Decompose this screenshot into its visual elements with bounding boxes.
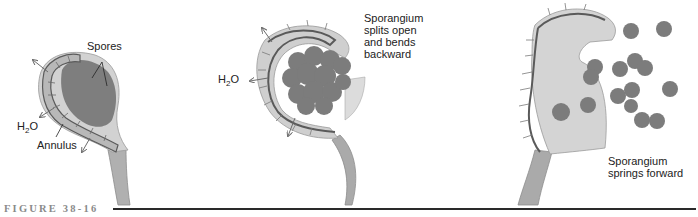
h2o-suffix: O — [230, 73, 239, 85]
h2o-prefix: H — [17, 120, 25, 132]
spores-label: Spores — [87, 40, 122, 52]
caption-rule — [113, 208, 696, 210]
annulus-label: Annulus — [37, 139, 77, 151]
sporangium-illustration — [0, 0, 698, 217]
panel-2-sporangium — [250, 20, 365, 205]
sporangium-springs-label: Sporangium springs forward — [608, 155, 683, 179]
figure-caption: FIGURE 38-16 — [4, 203, 98, 214]
sporangium-splits-label: Sporangium splits open and bends backwar… — [364, 12, 423, 60]
h2o-prefix: H — [218, 73, 226, 85]
panel-1-sporangium — [33, 52, 130, 205]
h2o-suffix: O — [29, 120, 38, 132]
h2o-label-panel-2: H2O — [218, 73, 239, 90]
figure-38-16: Spores H2O Annulus H2O Sporangium splits… — [0, 0, 698, 217]
h2o-label-panel-1: H2O — [17, 120, 38, 137]
